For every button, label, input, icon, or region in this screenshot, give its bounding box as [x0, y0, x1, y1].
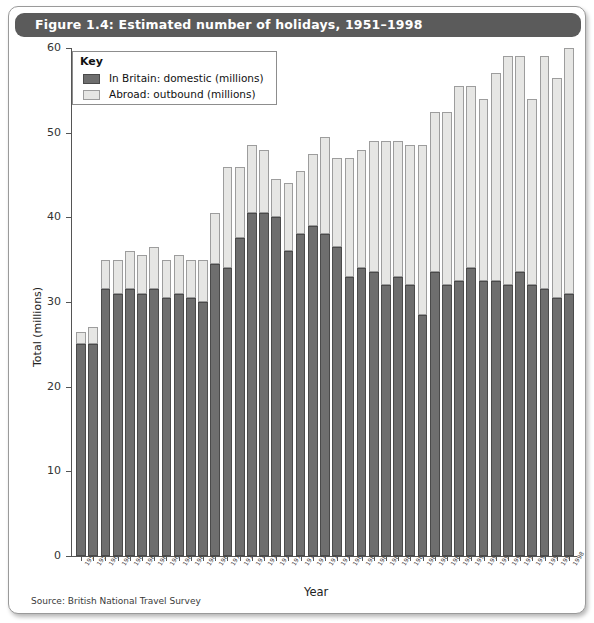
bar-segment-domestic — [223, 268, 233, 556]
bar-stack — [210, 213, 220, 556]
x-axis-tick — [93, 556, 94, 561]
bar-segment-abroad — [101, 260, 111, 290]
bar-stack — [259, 150, 269, 556]
bar-segment-abroad — [357, 150, 367, 269]
x-axis-tick — [325, 556, 326, 561]
bar-segment-abroad — [88, 327, 98, 344]
bar-segment-abroad — [491, 73, 501, 280]
bar-segment-domestic — [381, 285, 391, 556]
y-axis-tick — [66, 217, 71, 218]
bar-segment-domestic — [503, 285, 513, 556]
x-axis-tick — [508, 556, 509, 561]
bar-segment-domestic — [186, 298, 196, 556]
bar-segment-abroad — [405, 145, 415, 285]
bar-segment-abroad — [186, 260, 196, 298]
x-axis-tick — [423, 556, 424, 561]
bar-segment-abroad — [369, 141, 379, 272]
y-axis-tick-label: 10 — [35, 464, 61, 477]
bar-stack — [381, 141, 391, 556]
bar-segment-abroad — [564, 48, 574, 294]
bar-segment-abroad — [552, 78, 562, 298]
x-axis-tick — [557, 556, 558, 561]
x-axis-tick — [496, 556, 497, 561]
bar-stack — [296, 171, 306, 556]
bar-stack — [454, 86, 464, 556]
bar-segment-abroad — [223, 167, 233, 269]
bar-stack — [174, 255, 184, 556]
bar-segment-abroad — [174, 255, 184, 293]
x-axis-tick — [179, 556, 180, 561]
x-axis-tick — [276, 556, 277, 561]
x-axis-tick — [374, 556, 375, 561]
x-axis-tick — [313, 556, 314, 561]
bar-stack — [284, 183, 294, 556]
y-axis-title: Total (millions) — [31, 287, 44, 367]
bar-stack — [101, 260, 111, 556]
x-axis-tick — [520, 556, 521, 561]
bar-segment-domestic — [479, 281, 489, 556]
bar-segment-abroad — [210, 213, 220, 264]
bar-segment-abroad — [527, 99, 537, 285]
bar-segment-abroad — [271, 179, 281, 217]
bar-segment-domestic — [564, 294, 574, 556]
bar-segment-abroad — [418, 145, 428, 314]
bar-stack — [162, 260, 172, 556]
chart-legend: Key In Britain: domestic (millions) Abro… — [72, 51, 277, 105]
bar-stack — [198, 260, 208, 556]
bar-stack — [405, 145, 415, 556]
bar-stack — [308, 154, 318, 556]
y-axis-tick — [66, 387, 71, 388]
bar-segment-abroad — [76, 332, 86, 345]
bar-segment-domestic — [271, 217, 281, 556]
bar-stack — [527, 99, 537, 556]
bar-segment-abroad — [113, 260, 123, 294]
x-axis-title: Year — [304, 585, 328, 599]
x-axis-tick — [484, 556, 485, 561]
bar-segment-domestic — [88, 344, 98, 556]
bar-stack — [466, 86, 476, 556]
bar-segment-abroad — [540, 56, 550, 289]
x-axis-tick — [362, 556, 363, 561]
bar-segment-abroad — [345, 158, 355, 277]
bar-stack — [332, 158, 342, 556]
bar-stack — [515, 56, 525, 556]
bar-segment-domestic — [125, 289, 135, 556]
bar-segment-domestic — [137, 294, 147, 556]
y-axis-tick — [66, 471, 71, 472]
y-axis-tick-label: 50 — [35, 126, 61, 139]
bar-stack — [564, 48, 574, 556]
y-axis-tick — [66, 556, 71, 557]
bar-segment-abroad — [320, 137, 330, 234]
bar-segment-domestic — [284, 251, 294, 556]
bar-segment-abroad — [125, 251, 135, 289]
bar-segment-abroad — [137, 255, 147, 293]
y-axis-tick-label: 0 — [35, 549, 61, 562]
bar-stack — [393, 141, 403, 556]
bar-segment-domestic — [235, 238, 245, 556]
x-axis-tick — [215, 556, 216, 561]
x-axis-tick — [288, 556, 289, 561]
bar-segment-abroad — [284, 183, 294, 251]
x-axis-tick — [301, 556, 302, 561]
bar-segment-domestic — [162, 298, 172, 556]
y-axis-tick-label: 40 — [35, 210, 61, 223]
bar-stack — [271, 179, 281, 556]
x-axis-tick — [435, 556, 436, 561]
x-axis-tick — [118, 556, 119, 561]
x-axis-tick — [349, 556, 350, 561]
bar-segment-domestic — [320, 234, 330, 556]
x-axis-tick — [130, 556, 131, 561]
bar-stack — [76, 332, 86, 556]
bar-segment-domestic — [454, 281, 464, 556]
bar-segment-domestic — [357, 268, 367, 556]
x-axis-tick — [459, 556, 460, 561]
x-axis-tick — [227, 556, 228, 561]
bar-segment-domestic — [442, 285, 452, 556]
bar-segment-domestic — [76, 344, 86, 556]
x-axis-tick — [105, 556, 106, 561]
bar-stack — [137, 255, 147, 556]
bar-segment-domestic — [540, 289, 550, 556]
bar-segment-abroad — [515, 56, 525, 272]
bar-segment-domestic — [418, 315, 428, 556]
bar-stack — [369, 141, 379, 556]
